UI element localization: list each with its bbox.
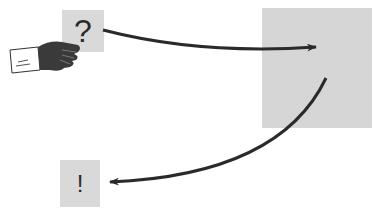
diagram-arrows bbox=[0, 0, 381, 216]
hand-icon bbox=[10, 42, 80, 73]
arrow-input-to-box bbox=[103, 30, 316, 49]
arrow-box-to-output bbox=[110, 78, 326, 182]
